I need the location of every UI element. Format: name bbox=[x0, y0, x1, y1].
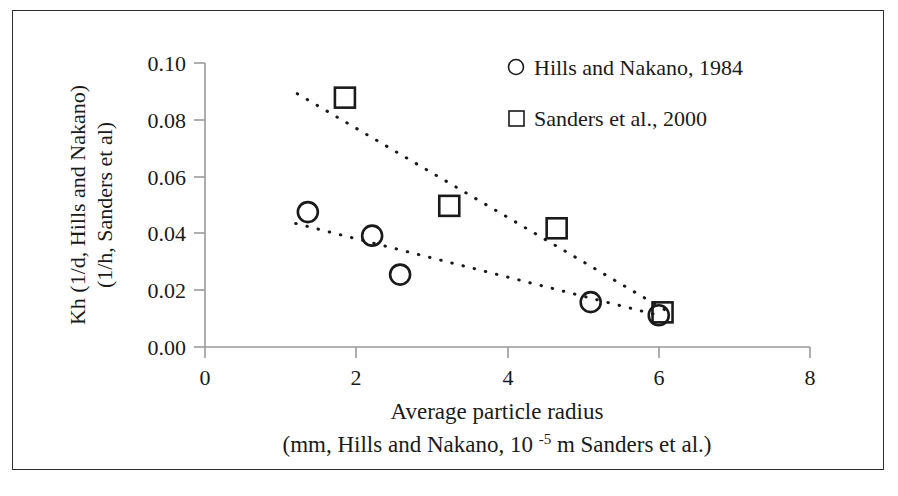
y-tick-label-3: 0.04 bbox=[148, 221, 187, 246]
x-tick-label-1: 2 bbox=[351, 365, 362, 390]
x-tick-label-2: 4 bbox=[503, 365, 514, 390]
data-point-circle bbox=[298, 202, 318, 222]
x-axis-title-line2-pre: (mm, Hills and Nakano, 10 bbox=[283, 432, 539, 457]
legend-marker-square-icon bbox=[509, 111, 524, 126]
y-tick-label-5: 0.00 bbox=[148, 335, 187, 360]
legend: Hills and Nakano, 1984 Sanders et al., 2… bbox=[509, 55, 743, 131]
legend-label-0: Hills and Nakano, 1984 bbox=[534, 55, 743, 80]
x-tick-label-4: 8 bbox=[805, 365, 816, 390]
data-point-circle bbox=[390, 265, 410, 285]
y-tick-label-2: 0.06 bbox=[148, 165, 187, 190]
legend-marker-circle-icon bbox=[509, 60, 524, 75]
y-axis-title: Kh (1/d, Hills and Nakano) (1/h, Sanders… bbox=[65, 85, 117, 325]
x-axis-title-line2-post: m Sanders et al.) bbox=[551, 432, 711, 457]
y-axis-ticks bbox=[194, 63, 205, 347]
y-tick-label-4: 0.02 bbox=[148, 278, 187, 303]
y-axis-title-line1: Kh (1/d, Hills and Nakano) bbox=[65, 85, 90, 325]
x-axis-title-line2: (mm, Hills and Nakano, 10 -5 m Sanders e… bbox=[283, 431, 712, 457]
data-point-circle bbox=[581, 292, 601, 312]
x-axis-title-line2-sup: -5 bbox=[539, 431, 552, 447]
y-tick-label-1: 0.08 bbox=[148, 108, 187, 133]
scatter-plot: 0.10 0.08 0.06 0.04 0.02 0.00 0 2 4 6 8 … bbox=[0, 0, 898, 496]
data-point-square bbox=[439, 196, 459, 216]
data-point-square bbox=[335, 88, 355, 108]
trendline-circle bbox=[296, 223, 663, 316]
x-axis-title-line1: Average particle radius bbox=[391, 399, 604, 424]
y-tick-label-0: 0.10 bbox=[148, 51, 187, 76]
x-tick-label-3: 6 bbox=[654, 365, 665, 390]
data-point-square bbox=[547, 218, 567, 238]
data-point-circle bbox=[362, 226, 382, 246]
legend-label-1: Sanders et al., 2000 bbox=[534, 106, 707, 131]
x-tick-label-0: 0 bbox=[200, 365, 211, 390]
figure-container: 0.10 0.08 0.06 0.04 0.02 0.00 0 2 4 6 8 … bbox=[0, 0, 898, 496]
x-axis-ticks bbox=[205, 347, 810, 358]
y-axis-title-line2: (1/h, Sanders et al) bbox=[92, 122, 117, 288]
